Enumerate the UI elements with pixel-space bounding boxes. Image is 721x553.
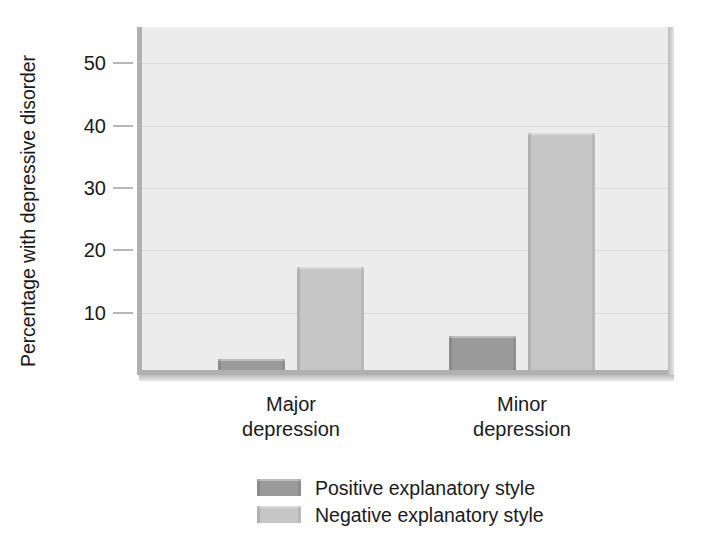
bar-shade-l — [297, 267, 300, 370]
bar-chart-figure: Percentage with depressive disorder 1020… — [0, 0, 721, 553]
plot-edge-shadow-right — [668, 27, 674, 379]
bar-shade-r — [361, 267, 364, 370]
y-tick-mark-10 — [113, 312, 133, 314]
bar-shade-r — [298, 479, 301, 496]
y-tick-mark-20 — [113, 249, 133, 251]
bar-shade-l — [449, 336, 452, 370]
bar-shade-t — [297, 267, 364, 269]
bar-shade-l — [528, 133, 531, 370]
y-tick-label-20: 20 — [60, 240, 106, 260]
bar-shade-l — [257, 479, 260, 496]
legend-label: Positive explanatory style — [315, 477, 535, 499]
y-tick-label-40: 40 — [60, 116, 106, 136]
legend-item-negative: Negative explanatory style — [257, 501, 587, 528]
bar-shade-r — [513, 336, 516, 370]
legend-swatch-negative — [257, 506, 301, 523]
legend-swatch-positive — [257, 479, 301, 496]
bar-shade-t — [218, 359, 285, 361]
bar-shade-t — [257, 479, 301, 481]
x-axis-label-line: Major — [191, 392, 391, 417]
bar-shade-l — [257, 506, 260, 523]
plot-edge-shadow-bottom — [139, 375, 674, 381]
bar-shade-r — [282, 359, 285, 370]
chart-legend: Positive explanatory styleNegative expla… — [257, 474, 587, 528]
legend-item-positive: Positive explanatory style — [257, 474, 587, 501]
x-axis-label-major-depression: Majordepression — [191, 392, 391, 442]
y-tick-mark-50 — [113, 62, 133, 64]
x-axis-label-minor-depression: Minordepression — [422, 392, 622, 442]
x-axis-label-line: depression — [191, 417, 391, 442]
gridline-50 — [142, 63, 672, 64]
x-axis-label-line: Minor — [422, 392, 622, 417]
bar-shade-t — [449, 336, 516, 338]
y-tick-label-10: 10 — [60, 303, 106, 323]
y-tick-mark-40 — [113, 125, 133, 127]
bar-shade-r — [298, 506, 301, 523]
bar-shade-t — [257, 506, 301, 508]
x-axis-label-line: depression — [422, 417, 622, 442]
y-axis-title: Percentage with depressive disorder — [15, 31, 41, 391]
bar-minor-depression-positive — [449, 336, 516, 370]
bar-shade-r — [592, 133, 595, 370]
y-axis-tick-labels: 1020304050 — [60, 0, 106, 553]
gridline-40 — [142, 126, 672, 127]
y-tick-label-50: 50 — [60, 53, 106, 73]
bar-major-depression-negative — [297, 267, 364, 370]
bar-shade-l — [218, 359, 221, 370]
plot-area — [137, 27, 672, 375]
y-tick-label-30: 30 — [60, 178, 106, 198]
bar-major-depression-positive — [218, 359, 285, 370]
legend-label: Negative explanatory style — [315, 504, 544, 526]
bar-minor-depression-negative — [528, 133, 595, 370]
bar-shade-t — [528, 133, 595, 135]
y-tick-mark-30 — [113, 187, 133, 189]
